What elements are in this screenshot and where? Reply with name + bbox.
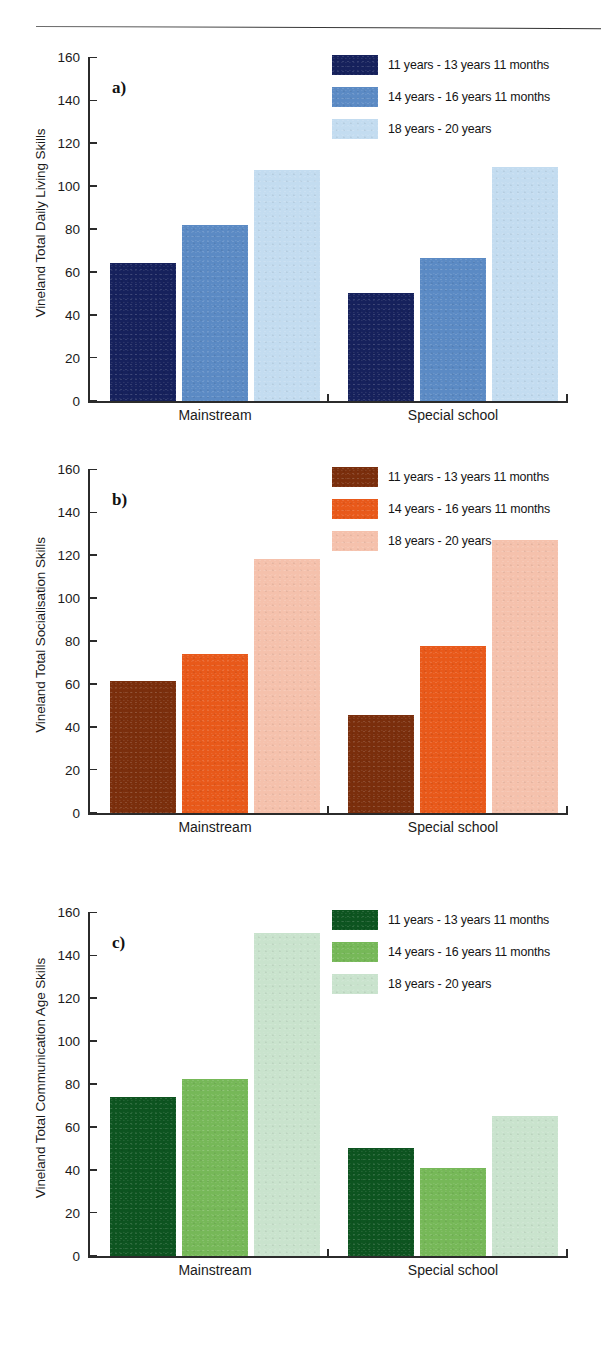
bar xyxy=(110,681,176,813)
legend-swatch-texture xyxy=(332,467,378,487)
y-tick-mark xyxy=(88,1040,97,1041)
legend-item[interactable]: 18 years - 20 years xyxy=(332,971,550,997)
bar-texture-overlay xyxy=(492,1116,558,1257)
y-tick-mark xyxy=(88,469,97,470)
bar xyxy=(492,540,558,814)
y-tick: 80 xyxy=(88,640,97,641)
x-axis-right-cap xyxy=(566,394,568,403)
x-axis-left-cap xyxy=(88,394,90,403)
bar-texture-overlay xyxy=(182,225,248,401)
y-tick: 140 xyxy=(88,955,97,956)
legend-label: 18 years - 20 years xyxy=(388,122,491,136)
legend-item[interactable]: 11 years - 13 years 11 months xyxy=(332,464,550,490)
y-tick-mark xyxy=(88,1083,97,1084)
legend-item[interactable]: 18 years - 20 years xyxy=(332,528,550,554)
legend-item[interactable]: 11 years - 13 years 11 months xyxy=(332,52,550,78)
legend-color-swatch xyxy=(332,87,378,107)
bar-texture-overlay xyxy=(420,1168,486,1256)
y-tick-label: 140 xyxy=(57,505,80,520)
legend: 11 years - 13 years 11 months14 years - … xyxy=(332,52,550,148)
y-tick-label: 80 xyxy=(65,1077,80,1092)
y-tick-mark xyxy=(88,228,97,229)
panel-letter: b) xyxy=(112,490,127,510)
chart-panel-a: Vineland Total Daily Living Skills020406… xyxy=(0,40,601,450)
y-axis-label-container: Vineland Total Communication Age Skills xyxy=(30,913,52,1243)
y-tick-label: 160 xyxy=(57,905,80,920)
bar xyxy=(420,646,486,813)
x-axis-category-label: Special school xyxy=(373,1262,533,1278)
y-tick: 0 xyxy=(88,1255,97,1256)
bar xyxy=(110,1097,176,1257)
y-tick: 40 xyxy=(88,314,97,315)
y-tick-label: 80 xyxy=(65,634,80,649)
y-tick-label: 80 xyxy=(65,222,80,237)
x-axis-right-cap xyxy=(566,1249,568,1258)
panel-letter: c) xyxy=(112,933,125,953)
y-tick: 80 xyxy=(88,1083,97,1084)
y-tick-label: 20 xyxy=(65,1205,80,1220)
y-tick-label: 0 xyxy=(72,393,80,408)
y-tick: 100 xyxy=(88,597,97,598)
x-axis-center-tick xyxy=(327,806,329,815)
legend-color-swatch xyxy=(332,119,378,139)
bar xyxy=(182,1079,248,1256)
bar xyxy=(420,258,486,402)
bar-texture-overlay xyxy=(182,1079,248,1256)
y-tick-mark xyxy=(88,185,97,186)
y-tick-mark xyxy=(88,100,97,101)
y-tick-mark xyxy=(88,912,97,913)
y-tick-mark xyxy=(88,955,97,956)
y-tick-label: 0 xyxy=(72,805,80,820)
bar xyxy=(254,933,320,1256)
y-tick-label: 20 xyxy=(65,762,80,777)
legend-item[interactable]: 18 years - 20 years xyxy=(332,116,550,142)
legend-item[interactable]: 14 years - 16 years 11 months xyxy=(332,496,550,522)
bar xyxy=(348,715,414,814)
legend-color-swatch xyxy=(332,499,378,519)
y-tick: 60 xyxy=(88,683,97,684)
x-axis-category-label: Mainstream xyxy=(135,407,295,423)
y-axis-label-container: Vineland Total Daily Living Skills xyxy=(30,58,52,388)
y-axis-label: Vineland Total Daily Living Skills xyxy=(30,58,52,388)
legend-swatch-texture xyxy=(332,499,378,519)
legend: 11 years - 13 years 11 months14 years - … xyxy=(332,464,550,560)
legend-swatch-texture xyxy=(332,531,378,551)
bar-texture-overlay xyxy=(254,170,320,402)
y-tick: 120 xyxy=(88,142,97,143)
y-tick-label: 60 xyxy=(65,264,80,279)
y-axis-line xyxy=(88,913,90,1258)
x-axis-right-cap xyxy=(566,806,568,815)
x-axis-category-label: Special school xyxy=(373,819,533,835)
chart-panel-b: Vineland Total Socialisation Skills02040… xyxy=(0,452,601,862)
x-axis-category-label: Special school xyxy=(373,407,533,423)
legend-color-swatch xyxy=(332,531,378,551)
bar-texture-overlay xyxy=(492,167,558,401)
bar xyxy=(348,1148,414,1256)
legend-label: 14 years - 16 years 11 months xyxy=(388,945,550,959)
chart-panel-c: Vineland Total Communication Age Skills0… xyxy=(0,895,601,1310)
bar-texture-overlay xyxy=(420,646,486,813)
bar xyxy=(110,263,176,401)
y-tick-mark xyxy=(88,400,97,401)
bar xyxy=(420,1168,486,1256)
y-tick-mark xyxy=(88,57,97,58)
legend-item[interactable]: 11 years - 13 years 11 months xyxy=(332,907,550,933)
x-axis-center-tick xyxy=(327,394,329,403)
legend-swatch-texture xyxy=(332,942,378,962)
legend-item[interactable]: 14 years - 16 years 11 months xyxy=(332,84,550,110)
y-tick-mark xyxy=(88,997,97,998)
bar-texture-overlay xyxy=(348,1148,414,1256)
y-tick-mark xyxy=(88,554,97,555)
legend-item[interactable]: 14 years - 16 years 11 months xyxy=(332,939,550,965)
y-tick: 100 xyxy=(88,1040,97,1041)
y-tick: 120 xyxy=(88,997,97,998)
y-tick-mark xyxy=(88,683,97,684)
bar-texture-overlay xyxy=(348,293,414,401)
y-tick-mark xyxy=(88,1126,97,1127)
legend-label: 11 years - 13 years 11 months xyxy=(388,470,549,484)
bar xyxy=(254,170,320,402)
y-axis-label: Vineland Total Communication Age Skills xyxy=(30,913,52,1243)
legend-swatch-texture xyxy=(332,55,378,75)
y-axis-line xyxy=(88,58,90,403)
y-tick-mark xyxy=(88,597,97,598)
